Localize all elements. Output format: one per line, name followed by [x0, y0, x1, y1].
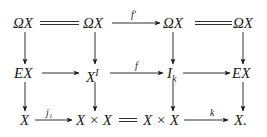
path-space-exponent: I [95, 67, 98, 78]
node-omega-x-1: ΩX [13, 15, 33, 31]
label-k: k [210, 108, 214, 118]
node-omega-x-3: ΩX [163, 15, 183, 31]
label-f: f [135, 61, 138, 71]
node-x-times-x-1: X × X [76, 112, 112, 128]
node-x-1: X [20, 112, 29, 128]
diagram-arrows [0, 0, 267, 137]
node-ex-2: EX [232, 65, 250, 81]
i-k-subscript: k [172, 73, 176, 84]
node-x-final: X. [234, 112, 247, 128]
label-j1: j₁ [46, 108, 52, 118]
node-x-times-x-2: X × X [143, 112, 179, 128]
node-omega-x-2: ΩX [83, 15, 103, 31]
node-path-space: XI [86, 65, 99, 85]
equals-r2-c1-c2 [119, 119, 137, 122]
label-f-prime: f′ [131, 10, 136, 20]
equals-r0-c2-c3 [195, 22, 232, 25]
node-omega-x-4: ΩX [233, 15, 253, 31]
equals-r0-c0-c1 [40, 22, 79, 25]
node-ex-1: EX [14, 65, 32, 81]
path-space-base: X [86, 69, 95, 85]
node-i-k: Ik [167, 65, 176, 87]
